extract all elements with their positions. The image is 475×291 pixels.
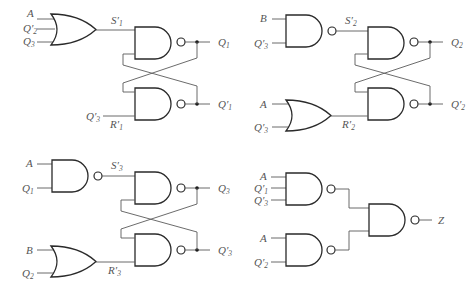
input-label-a: A [259,98,267,110]
nand-gate-2 [286,234,322,266]
nand-gate-z [369,204,405,236]
nand-gate-q1p [135,88,171,120]
signal-label-s1-prime: S′1 [111,14,123,28]
latch-3-circuit: A Q1 S′3 Q3 Q′3 B Q2 R′3 [22,157,232,281]
nand-gate-q2p [368,88,404,120]
nand-gate-q2 [368,27,404,59]
signal-label-r1-prime: R′1 [109,118,123,132]
latch-1-circuit: A Q′2 Q3 S′1 Q1 Q′1 Q′3 R′1 [23,7,232,132]
nand-gate-q1 [135,27,171,59]
input-label-a: A [259,170,267,182]
input-label-q3-prime: Q′3 [86,110,100,124]
input-label-q2-prime: Q′2 [254,256,268,270]
output-label-q3-prime: Q′3 [218,244,232,258]
nand-gate-s3 [52,160,88,192]
input-label-q2: Q2 [22,267,34,281]
signal-label-r3-prime: R′3 [107,264,121,278]
output-label-z: Z [438,214,445,226]
inversion-bubble [177,38,185,46]
input-label-a: A [26,7,34,19]
or-gate-s1 [51,14,96,45]
or-gate-r2 [286,100,331,131]
input-label-q3-prime: Q′3 [254,194,268,208]
input-label-q3-prime: Q′3 [254,37,268,51]
input-label-q3-prime-2: Q′3 [254,121,268,135]
logic-diagram: A Q′2 Q3 S′1 Q1 Q′1 Q′3 R′1 B Q′3 S′2 Q2… [0,0,475,291]
output-label-q2: Q2 [451,36,463,50]
input-label-q3: Q3 [23,35,35,49]
input-label-q1: Q1 [22,182,34,196]
or-gate-r3 [51,246,96,277]
nand-gate-q3 [135,172,171,204]
output-logic-circuit: A Q′1 Q′3 A Q′2 Z [254,170,445,270]
input-label-a: A [25,157,33,169]
input-label-b: B [26,244,33,256]
output-label-q1-prime: Q′1 [218,98,232,112]
latch-2-circuit: B Q′3 S′2 Q2 Q′2 A Q′3 R′2 [254,12,465,135]
signal-label-s2-prime: S′2 [345,14,357,28]
nand-gate-1 [286,173,322,205]
nand-gate-q3p [135,234,171,266]
input-label-q2-prime: Q′2 [23,22,37,36]
output-label-q3: Q3 [218,182,230,196]
output-label-q1: Q1 [218,36,230,50]
output-label-q2-prime: Q′2 [451,98,465,112]
signal-label-r2-prime: R′2 [341,118,355,132]
signal-label-s3-prime: S′3 [111,159,123,173]
nand-gate-s2 [286,15,322,47]
input-label-a-2: A [259,232,267,244]
input-label-b: B [260,12,267,24]
